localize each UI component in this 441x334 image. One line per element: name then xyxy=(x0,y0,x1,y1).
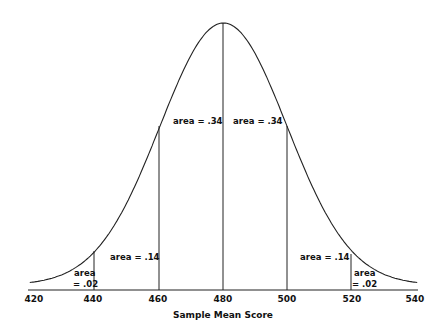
tick-480: 480 xyxy=(214,294,233,304)
x-axis-title: Sample Mean Score xyxy=(173,310,273,320)
region-label-460-480: area = .34 xyxy=(173,116,223,126)
region-label-500-520: area = .14 xyxy=(300,252,350,262)
region-label-520-540-line2: = .02 xyxy=(352,279,377,289)
tick-520: 520 xyxy=(343,294,362,304)
tick-420: 420 xyxy=(25,294,44,304)
tick-440: 440 xyxy=(84,294,103,304)
region-label-420-440-line1: area xyxy=(74,268,96,278)
region-label-420-440-line2: = .02 xyxy=(73,279,98,289)
region-label-480-500: area = .34 xyxy=(233,116,283,126)
bell-curve xyxy=(30,23,417,283)
region-label-440-460: area = .14 xyxy=(110,252,160,262)
normal-distribution-chart: area = .02 area = .14 area = .34 area = … xyxy=(0,0,441,334)
tick-540: 540 xyxy=(406,294,425,304)
region-label-520-540-line1: area xyxy=(354,268,376,278)
tick-500: 500 xyxy=(278,294,297,304)
tick-460: 460 xyxy=(149,294,168,304)
